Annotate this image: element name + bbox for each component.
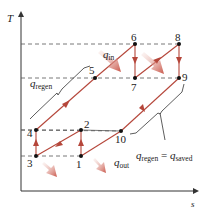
y-axis-label: T: [7, 12, 14, 24]
x-axis-label: s: [191, 199, 195, 209]
q-out-arrow: [42, 162, 57, 177]
label-2: 2: [84, 118, 90, 130]
label-6: 6: [131, 31, 137, 43]
point-9: [177, 76, 181, 80]
label-1: 1: [76, 158, 82, 170]
label-4: 4: [27, 127, 33, 139]
point-4: [34, 128, 38, 132]
ts-diagram: T s: [0, 0, 209, 214]
point-7: [133, 76, 137, 80]
label-8: 8: [175, 31, 181, 43]
q-regen-saved-label: qregen = qsaved: [136, 149, 193, 163]
point-5: [93, 76, 97, 80]
label-5: 5: [89, 64, 95, 76]
label-10: 10: [115, 133, 127, 145]
q-out-label: qout: [114, 156, 130, 170]
label-9: 9: [182, 71, 188, 83]
brackets: [30, 66, 184, 140]
label-3: 3: [27, 157, 33, 169]
label-7: 7: [131, 81, 137, 93]
axes: T s: [7, 12, 196, 209]
point-3: [34, 154, 38, 158]
point-2: [79, 128, 83, 132]
q-out-arrow-2: [93, 158, 106, 173]
q-in-label: qin: [103, 48, 115, 62]
q-regen-label: qregen: [30, 77, 52, 91]
